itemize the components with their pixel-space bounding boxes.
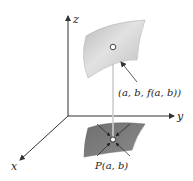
surface-point-label: (a, b, f(a, b)) bbox=[118, 87, 181, 98]
limit-diagram: z y x (a, b, f(a, b)) P(a, b) bbox=[0, 0, 193, 181]
surface-point-marker bbox=[110, 44, 116, 50]
domain-point-label: P(a, b) bbox=[94, 160, 128, 171]
y-axis-label: y bbox=[176, 110, 184, 123]
label-pointer-arrow bbox=[121, 62, 137, 82]
x-axis bbox=[20, 116, 68, 160]
domain-point-marker bbox=[110, 137, 115, 142]
x-axis-label: x bbox=[11, 160, 18, 173]
z-axis-label: z bbox=[72, 13, 79, 26]
